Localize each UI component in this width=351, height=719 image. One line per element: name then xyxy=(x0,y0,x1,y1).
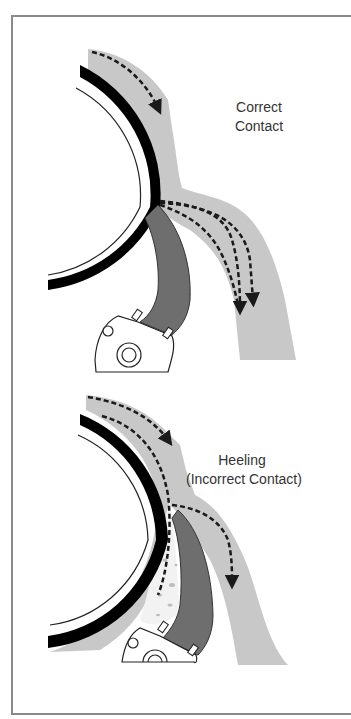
title-line: (Incorrect Contact) xyxy=(186,470,298,489)
title-line: Correct xyxy=(214,98,304,117)
panel-title-heeling: Heeling (Incorrect Contact) xyxy=(186,451,298,489)
panel-title-correct-contact: Correct Contact xyxy=(214,98,304,136)
title-line: Heeling xyxy=(186,451,298,470)
panel-heeling xyxy=(48,395,288,665)
title-line: Contact xyxy=(214,117,304,136)
